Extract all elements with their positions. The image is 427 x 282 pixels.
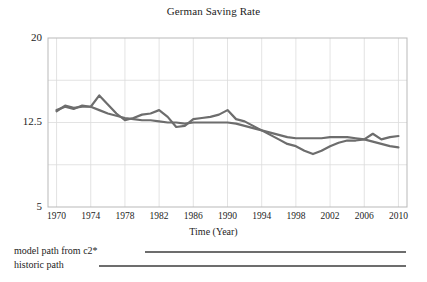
chart-figure: German Saving Rate 2012.55 1970197419781… (0, 0, 427, 282)
y-tick-label: 20 (2, 31, 42, 43)
legend-label-historic-path: historic path (14, 259, 64, 270)
legend-swatch-historic-path (99, 265, 406, 267)
x-tick-label: 2010 (378, 211, 418, 221)
legend-swatch-model-path (145, 251, 406, 253)
plot-area (0, 0, 427, 282)
y-tick-label: 5 (2, 200, 42, 212)
y-tick-label: 12.5 (2, 115, 42, 127)
x-axis-title: Time (Year) (0, 226, 427, 237)
legend-label-model-path: model path from c2* (14, 245, 98, 256)
